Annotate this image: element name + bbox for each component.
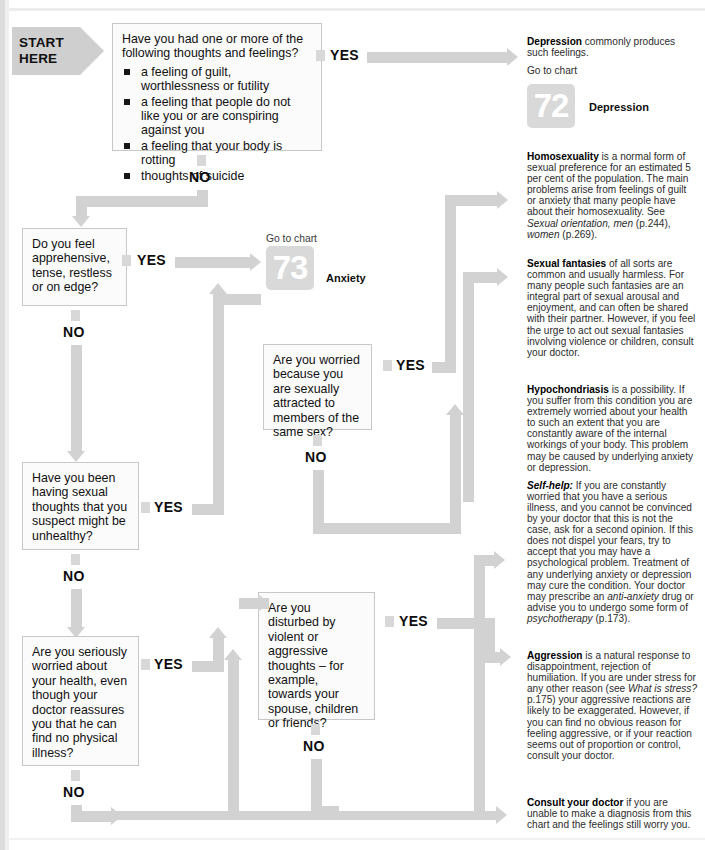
question-box-2[interactable]: Do you feel apprehensive, tense, restles…	[22, 228, 127, 306]
no-arrow-head-2	[67, 451, 85, 462]
no-arrow-head-1	[72, 216, 90, 227]
answer-hypochondriasis-selfhelp-label: Self-help:	[527, 480, 573, 491]
answer-fantasies-title: Sexual fantasies	[527, 258, 606, 269]
q6-entry-head	[258, 594, 269, 612]
answer-consult-body: Consult your doctor if you are unable to…	[527, 797, 697, 830]
question-6-text: Are you disturbed by violent or aggressi…	[268, 601, 365, 731]
no-tab-3	[313, 435, 322, 446]
bottom-trunk	[113, 811, 498, 820]
bullet-square-icon	[124, 99, 130, 105]
answer-depression-body: Depression commonly produces such feelin…	[527, 36, 697, 58]
start-here-arrow-tip	[80, 27, 104, 75]
question-1-bullet-0-text: a feeling of guilt, worthlessness or fut…	[141, 65, 269, 93]
yes-arrow-head-6	[500, 648, 511, 666]
question-4-text: Have you been having sexual thoughts tha…	[32, 471, 129, 543]
question-box-4[interactable]: Have you been having sexual thoughts tha…	[22, 462, 139, 550]
fantasies-channel-top	[463, 272, 497, 283]
answer-hypochondriasis-title: Hypochondriasis	[527, 384, 609, 395]
answer-consult-doctor: Consult your doctor if you are unable to…	[527, 797, 697, 837]
answer-hypochondriasis: Hypochondriasis is a possibility. If you…	[527, 384, 697, 631]
answer-aggression-text-2: p.175) your aggressive reactions are lik…	[527, 694, 692, 760]
flowchart-canvas: START HERE Have you had one or more of t…	[0, 0, 705, 850]
no-elbow-3-v	[450, 415, 461, 534]
question-box-5[interactable]: Are you seriously worried about your hea…	[22, 636, 139, 766]
answer-sexual-fantasies: Sexual fantasies of all sorts are common…	[527, 258, 697, 365]
answer-fantasies-body: Sexual fantasies of all sorts are common…	[527, 258, 697, 358]
answer-homosexuality-ref: Sexual orientation, men	[527, 218, 633, 229]
no-elbow-1-h	[76, 196, 208, 207]
consult-arrow-head	[496, 806, 507, 824]
answer-homosexuality-ref2: women	[527, 229, 560, 240]
question-1-bullet-0: a feeling of guilt, worthlessness or fut…	[122, 65, 312, 94]
yes-tab-3	[383, 360, 392, 371]
no-arrow-head-3	[446, 404, 464, 415]
fantasies-channel-v	[463, 272, 474, 502]
start-here-marker: START HERE	[12, 27, 104, 75]
chart-badge-73[interactable]: 73	[266, 246, 314, 290]
no-tab-5	[71, 770, 80, 781]
start-here-line1: START	[19, 35, 64, 51]
no-elbow-6-h	[311, 806, 339, 817]
yes-tab-1	[316, 50, 325, 61]
fantasies-arrow-head	[497, 268, 508, 286]
yes-arrow-head-2	[250, 253, 261, 271]
yes-label-2: YES	[137, 252, 166, 268]
answer-consult-title: Consult your doctor	[527, 797, 623, 808]
answer-aggression: Aggression is a natural response to disa…	[527, 650, 697, 768]
yes-arrow-head-1	[507, 48, 518, 66]
yes-label-3: YES	[396, 357, 425, 373]
yes-elbow-3-top	[445, 195, 497, 206]
page-gutter-inner	[5, 0, 9, 850]
yes-elbow-5-v	[213, 638, 224, 672]
hypo-riser-v	[474, 555, 485, 813]
answer-homosexuality-ref-mid: (p.244),	[633, 218, 671, 229]
chart-name-72: Depression	[589, 101, 649, 113]
question-box-6[interactable]: Are you disturbed by violent or aggressi…	[258, 592, 375, 720]
question-1-bullet-1: a feeling that people do not like you or…	[122, 95, 312, 138]
answer-homosexuality-body: Homosexuality is a normal form of sexual…	[527, 151, 697, 240]
no-shaft-4	[71, 589, 82, 627]
answer-fantasies-text: of all sorts are common and usually harm…	[527, 258, 695, 358]
chart-badge-72[interactable]: 72	[527, 84, 575, 128]
yes-arrow-head-4	[209, 283, 227, 294]
yes-elbow-4-v	[213, 294, 224, 515]
question-1-stem-line2: following thoughts and feelings?	[122, 46, 312, 60]
yes-elbow-4-top	[213, 294, 261, 305]
answer-aggression-ref: What is stress?	[628, 683, 697, 694]
no-tab-4	[71, 554, 80, 565]
start-here-line2: HERE	[19, 51, 64, 67]
yes-tab-5	[141, 659, 150, 670]
yes-arrow-shaft-2	[175, 257, 250, 268]
bullet-square-icon	[124, 143, 130, 149]
answer-homosexuality-ref-end: (p.269).	[560, 229, 598, 240]
yes-label-5: YES	[154, 656, 183, 672]
no-label-1: NO	[189, 169, 211, 185]
start-here-label: START HERE	[19, 35, 64, 67]
no-tab-6	[311, 724, 320, 735]
answer-hypochondriasis-body-2: Self-help: If you are constantly worried…	[527, 480, 697, 624]
no-label-6: NO	[303, 738, 325, 754]
question-5-text: Are you seriously worried about your hea…	[32, 645, 129, 760]
question-1-stem-line1: Have you had one or more of the	[122, 32, 312, 46]
answer-hypochondriasis-text-4: (p.173).	[593, 613, 631, 624]
no-elbow-5-h	[71, 811, 111, 822]
answer-hypochondriasis-text-1: is a possibility. If you suffer from thi…	[527, 384, 693, 473]
yes-tab-6	[385, 616, 394, 627]
yes-arrow-head-5	[209, 627, 227, 638]
yes-label-4: YES	[154, 499, 183, 515]
answer-depression-goto: Go to chart	[527, 65, 697, 76]
no-tab-1	[197, 155, 206, 166]
question-1-bullet-2: a feeling that your body is rotting	[122, 139, 312, 168]
question-box-3[interactable]: Are you worried because you are sexually…	[263, 344, 372, 430]
answer-homosexuality-title: Homosexuality	[527, 151, 599, 162]
answer-depression-title: Depression	[527, 36, 582, 47]
answer-aggression-body: Aggression is a natural response to disa…	[527, 650, 697, 761]
yes-label-6: YES	[399, 613, 428, 629]
question-1-bullet-1-text: a feeling that people do not like you or…	[141, 95, 291, 138]
yes-arrow-shaft-1	[367, 52, 507, 63]
chart-name-73: Anxiety	[326, 272, 366, 284]
question-box-1[interactable]: Have you had one or more of the followin…	[112, 23, 322, 151]
left-riser-head	[224, 649, 242, 660]
answer-hypochondriasis-drug: anti-anxiety	[607, 591, 659, 602]
yes-label-1: YES	[330, 47, 359, 63]
